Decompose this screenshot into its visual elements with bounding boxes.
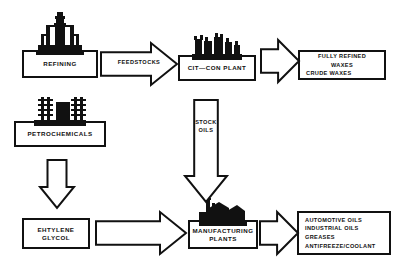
node-label-ethylene: EHTYLENE GLYCOL <box>37 226 74 242</box>
output-line: ANTIFREEZE/COOLANT <box>299 242 389 251</box>
node-label-petrochemicals: PETROCHEMICALS <box>27 130 92 138</box>
arrow-glycol-to-mfg <box>96 212 186 254</box>
arrow-petro-to-glycol <box>40 160 74 208</box>
arrow-feedstocks: FEEDSTOCKS <box>101 43 177 85</box>
node-label-manufacturing: MANUFACTURING PLANTS <box>192 227 253 243</box>
output-line: INDUSTRIAL OILS <box>299 224 389 233</box>
petrochemical-plant-icon <box>30 95 90 127</box>
citcon-plant-icon <box>191 33 243 61</box>
arrow-waxes-out <box>261 40 299 82</box>
output-box-waxes: FULLY REFINEDWAXESCRUDE WAXES <box>298 50 386 80</box>
refinery-towers-icon <box>33 12 87 56</box>
output-line: WAXES <box>300 61 384 70</box>
arrow-stock-oils: STOCK OILS <box>185 100 227 202</box>
output-line: CRUDE WAXES <box>300 69 384 78</box>
arrow-label-stock-oils: STOCK OILS <box>185 118 227 134</box>
arrow-label-feedstocks: FEEDSTOCKS <box>101 58 177 66</box>
output-line: AUTOMOTIVE OILS <box>299 216 389 225</box>
node-manufacturing: MANUFACTURING PLANTS <box>188 222 258 249</box>
node-label-citcon: CIT—CON PLANT <box>188 64 247 72</box>
output-line: FULLY REFINED <box>300 52 384 61</box>
node-ethylene: EHTYLENE GLYCOL <box>22 218 90 249</box>
output-line: GREASES <box>299 233 389 242</box>
arrow-products-out <box>260 212 298 254</box>
node-label-refining: REFINING <box>43 60 77 68</box>
diagram-canvas: REFININGPETROCHEMICALSCIT—CON PLANTEHTYL… <box>0 0 397 271</box>
output-box-products: AUTOMOTIVE OILSINDUSTRIAL OILSGREASESANT… <box>297 211 391 255</box>
